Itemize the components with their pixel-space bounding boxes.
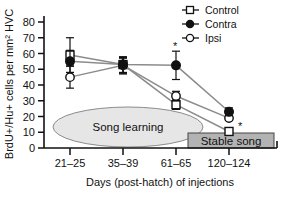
legend-item-contra[interactable]: Contra	[182, 18, 237, 30]
legend-label-contra: Contra	[205, 18, 237, 30]
legend-item-control[interactable]: Control	[182, 4, 239, 16]
chart-plot-area: Song learning Stable song	[0, 0, 282, 197]
chart-axes: 0 10 20 30 40 50 60 70 80 21–25 35–39	[3, 9, 277, 188]
contra-marker-2	[119, 60, 128, 69]
x-axis-tick-labels: 21–25 35–39 61–65 120–124	[55, 157, 251, 169]
y-tick-label-80: 80	[23, 16, 35, 28]
ipsi-marker-3	[172, 92, 180, 100]
y-tick-label-60: 60	[23, 48, 35, 60]
x-axis-title: Days (post-hatch) of injections	[86, 176, 234, 188]
song-learning-band: Song learning	[53, 107, 203, 147]
chart-legend: Control Contra Ipsi	[182, 4, 239, 44]
control-marker-3	[172, 101, 180, 109]
open-square-icon	[187, 7, 194, 14]
control-marker-4	[225, 127, 233, 135]
y-tick-label-30: 30	[23, 95, 35, 107]
control-significance-star-4: *	[238, 120, 243, 132]
y-axis-title: BrdU+/Hu+ cells per mm² HVC	[3, 9, 15, 159]
y-tick-label-0: 0	[29, 142, 35, 154]
contra-marker-4	[225, 107, 234, 116]
ipsi-marker-1	[66, 73, 74, 81]
y-tick-label-50: 50	[23, 63, 35, 75]
legend-item-ipsi[interactable]: Ipsi	[182, 32, 221, 44]
y-axis-tick-labels: 0 10 20 30 40 50 60 70 80	[23, 16, 35, 154]
y-axis-ticks	[38, 22, 44, 148]
filled-circle-icon	[186, 20, 193, 27]
legend-label-control: Control	[205, 4, 239, 16]
x-tick-label-1: 21–25	[55, 157, 86, 169]
stable-song-label: Stable song	[201, 135, 262, 147]
legend-label-ipsi: Ipsi	[205, 32, 221, 44]
y-tick-label-20: 20	[23, 111, 35, 123]
x-tick-label-2: 35–39	[108, 157, 139, 169]
x-tick-label-3: 61–65	[161, 157, 192, 169]
contra-marker-3	[172, 61, 181, 70]
contra-significance-star-3: *	[173, 40, 178, 52]
open-circle-icon	[186, 34, 193, 41]
contra-error-bars	[66, 50, 233, 115]
chart-figure: Song learning Stable song	[0, 0, 282, 197]
x-axis-ticks	[70, 148, 229, 155]
y-tick-label-40: 40	[23, 79, 35, 91]
song-learning-label: Song learning	[93, 121, 164, 133]
contra-line	[70, 61, 229, 111]
x-tick-label-4: 120–124	[208, 157, 251, 169]
series-contra: *	[66, 40, 234, 116]
y-tick-label-70: 70	[23, 32, 35, 44]
contra-marker-1	[66, 57, 75, 66]
y-tick-label-10: 10	[23, 126, 35, 138]
